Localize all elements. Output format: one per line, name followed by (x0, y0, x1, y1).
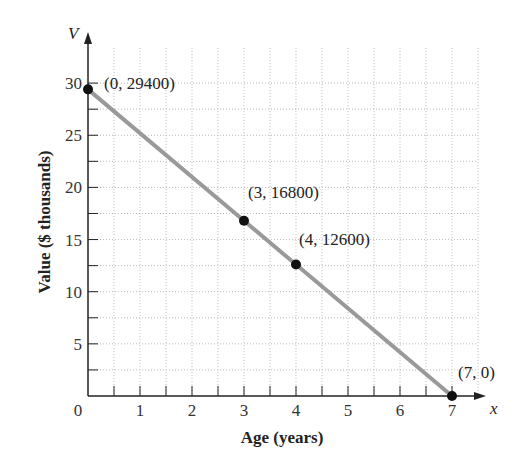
x-axis-title: Age (years) (241, 428, 324, 447)
data-point (291, 260, 301, 270)
x-tick-label: 5 (344, 401, 353, 420)
point-label: (4, 12600) (299, 230, 370, 249)
y-tick-label: 20 (65, 178, 82, 197)
y-tick-label: 5 (74, 335, 83, 354)
point-label: (7, 0) (458, 363, 495, 382)
x-tick-label: 2 (188, 401, 197, 420)
x-tick-label: 6 (396, 401, 405, 420)
x-axis-var: x (489, 399, 498, 418)
y-axis-var: V (68, 24, 81, 43)
x-tick-label: 1 (136, 401, 145, 420)
data-point (83, 84, 93, 94)
y-tick-label: 15 (65, 231, 82, 250)
point-annotations: (0, 29400)(3, 16800)(4, 12600)(7, 0) (104, 74, 495, 382)
y-tick-label: 25 (65, 126, 82, 145)
y-tick-label: 30 (65, 74, 82, 93)
chart: 0123456751015202530 (0, 29400)(3, 16800)… (0, 0, 527, 467)
data-point (447, 391, 457, 401)
y-tick-label: 10 (65, 283, 82, 302)
y-axis-title: Value ($ thousands) (35, 151, 54, 294)
point-label: (0, 29400) (104, 74, 175, 93)
tick-labels: 0123456751015202530 (65, 74, 457, 420)
x-tick-label: 4 (292, 401, 301, 420)
point-label: (3, 16800) (248, 183, 319, 202)
grid (88, 48, 478, 396)
x-tick-label: 0 (74, 401, 83, 420)
x-tick-label: 3 (240, 401, 249, 420)
data-point (239, 216, 249, 226)
data-series (83, 84, 457, 401)
x-tick-label: 7 (448, 401, 457, 420)
